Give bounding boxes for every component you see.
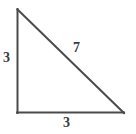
triangle-svg bbox=[0, 0, 136, 134]
horizontal-leg-label: 3 bbox=[63, 116, 70, 130]
hypotenuse-label: 7 bbox=[73, 41, 80, 55]
hypotenuse-line bbox=[18, 10, 125, 114]
triangle-outline bbox=[17, 9, 124, 113]
vertical-leg-label: 3 bbox=[3, 51, 10, 65]
triangle-diagram: 3 3 7 bbox=[0, 0, 136, 134]
